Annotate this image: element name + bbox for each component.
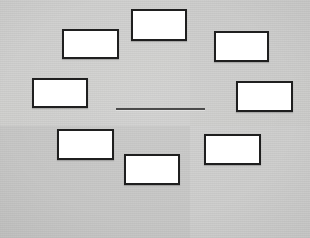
diagram-box-5[interactable] — [236, 81, 293, 112]
diagram-box-1[interactable] — [62, 29, 119, 59]
diagram-box-5-label — [238, 83, 291, 110]
diagram-box-4-label — [34, 80, 86, 106]
diagram-box-3[interactable] — [214, 31, 269, 62]
diagram-canvas — [0, 0, 310, 238]
diagram-box-6[interactable] — [57, 129, 114, 160]
diagram-box-2[interactable] — [131, 9, 187, 41]
diagram-box-8-label — [206, 136, 259, 163]
diagram-box-6-label — [59, 131, 112, 158]
diagram-box-7-label — [126, 156, 178, 183]
diagram-box-3-label — [216, 33, 267, 60]
diagram-box-4[interactable] — [32, 78, 88, 108]
center-connector-line — [116, 108, 205, 110]
diagram-box-1-label — [64, 31, 117, 57]
diagram-box-8[interactable] — [204, 134, 261, 165]
diagram-box-7[interactable] — [124, 154, 180, 185]
diagram-box-2-label — [133, 11, 185, 39]
